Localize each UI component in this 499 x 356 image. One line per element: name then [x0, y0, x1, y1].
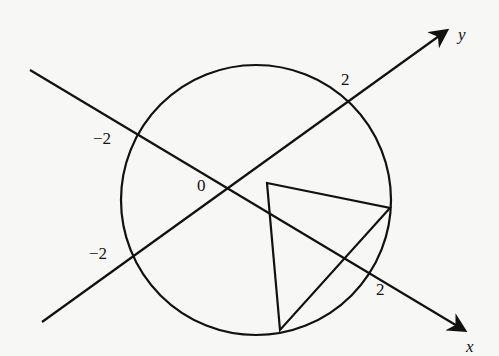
coordinate-diagram: y x 2 −2 0 −2 2 — [0, 0, 499, 356]
y-tick-negative: −2 — [89, 244, 107, 263]
x-tick-negative: −2 — [93, 129, 111, 148]
triangle — [267, 183, 390, 330]
x-axis-label: x — [465, 337, 474, 356]
y-axis — [42, 31, 446, 322]
origin-label: 0 — [197, 176, 206, 195]
y-axis-label: y — [456, 25, 466, 44]
x-tick-positive: 2 — [376, 280, 385, 299]
y-tick-positive: 2 — [341, 70, 350, 89]
x-axis — [30, 70, 464, 330]
